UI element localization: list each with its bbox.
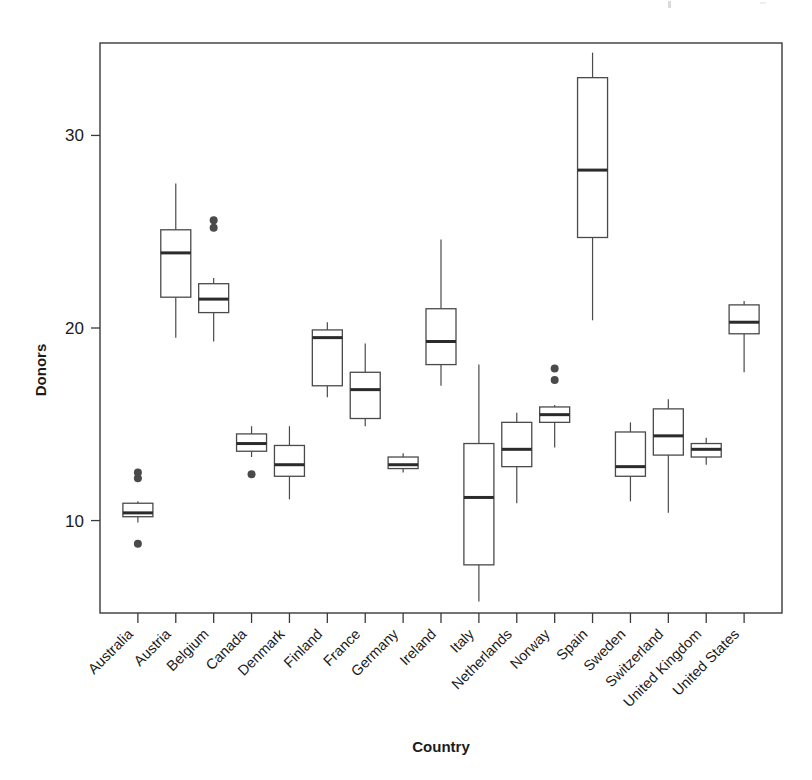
y-tick-label-10: 10 bbox=[65, 512, 84, 531]
y-tick-label-30: 30 bbox=[65, 126, 84, 145]
scan-artifact bbox=[668, 1, 671, 8]
box-iqr bbox=[426, 309, 456, 365]
outlier-point bbox=[551, 364, 559, 372]
outlier-point bbox=[248, 470, 256, 478]
box-iqr bbox=[615, 432, 645, 476]
outlier-point bbox=[551, 376, 559, 384]
x-axis-title: Country bbox=[412, 738, 470, 755]
box-iqr bbox=[350, 372, 380, 418]
box-iqr bbox=[161, 230, 191, 297]
box-iqr bbox=[123, 503, 153, 516]
scan-artifact-2 bbox=[760, 2, 766, 4]
outlier-point bbox=[134, 474, 142, 482]
boxplot-figure: 102030 AustraliaAustriaBelgiumCanadaDenm… bbox=[0, 0, 812, 780]
y-axis-title: Donors bbox=[32, 344, 49, 397]
box-iqr bbox=[653, 409, 683, 455]
box-iqr bbox=[464, 444, 494, 565]
outlier-point bbox=[210, 224, 218, 232]
box-iqr bbox=[729, 305, 759, 334]
box-iqr bbox=[388, 457, 418, 469]
outlier-point bbox=[134, 540, 142, 548]
donors-by-country-boxplot: 102030 AustraliaAustriaBelgiumCanadaDenm… bbox=[0, 0, 812, 780]
box-iqr bbox=[502, 422, 532, 466]
box-iqr bbox=[274, 445, 304, 476]
box-finland[interactable] bbox=[312, 322, 342, 397]
y-tick-label-20: 20 bbox=[65, 319, 84, 338]
outlier-point bbox=[210, 216, 218, 224]
box-iqr bbox=[578, 78, 608, 238]
